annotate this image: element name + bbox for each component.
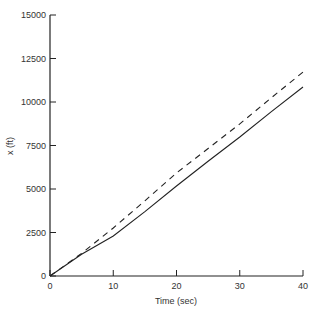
y-tick-label: 0: [41, 271, 46, 281]
y-tick-label: 7500: [26, 141, 46, 151]
y-axis-label: x (ft): [5, 137, 15, 155]
x-tick-label: 20: [171, 281, 181, 291]
y-tick-label: 5000: [26, 184, 46, 194]
x-tick-label: 30: [235, 281, 245, 291]
series-line-dashed: [50, 72, 303, 276]
x-tick-label: 40: [298, 281, 308, 291]
plot-lines: [50, 72, 303, 276]
y-tick-label: 12500: [21, 54, 46, 64]
x-tick-label: 0: [47, 281, 52, 291]
x-tick-label: 10: [108, 281, 118, 291]
y-tick-label: 2500: [26, 228, 46, 238]
y-tick-label: 10000: [21, 97, 46, 107]
axes: 0102030400250050007500100001250015000: [21, 10, 308, 291]
x-axis-label: Time (sec): [155, 296, 197, 306]
line-chart: 0102030400250050007500100001250015000 Ti…: [0, 0, 317, 310]
y-tick-label: 15000: [21, 10, 46, 20]
